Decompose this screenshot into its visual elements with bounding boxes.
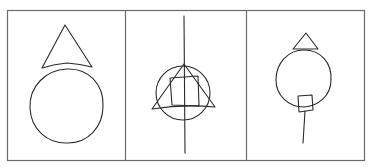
circle-shape bbox=[30, 69, 103, 143]
panel-2: Panel 2: circle, triangle and square ove… bbox=[152, 16, 215, 153]
circle-shape bbox=[156, 66, 210, 120]
triangle-shape bbox=[152, 64, 215, 109]
panel-1: Panel 1: triangle above a large circle bbox=[30, 25, 103, 143]
three-panel-sketch: Three-panel hand-drawn sketch of geometr… bbox=[0, 0, 372, 168]
sketch-canvas: Panel 1: triangle above a large circle P… bbox=[0, 0, 372, 168]
circle-shape bbox=[276, 50, 331, 107]
rectangle-shape bbox=[298, 95, 313, 112]
triangle-shape bbox=[293, 33, 318, 49]
vertical-line bbox=[184, 16, 185, 153]
triangle-shape bbox=[42, 25, 92, 68]
stick-line bbox=[303, 111, 305, 143]
panel-3: Panel 3: small triangle atop a circle, s… bbox=[276, 33, 331, 143]
